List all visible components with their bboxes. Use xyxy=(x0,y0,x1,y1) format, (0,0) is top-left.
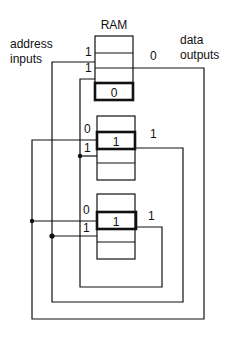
junction-dot xyxy=(30,219,34,223)
data-label-line1: data xyxy=(180,33,204,47)
address-label-line1: address xyxy=(10,37,53,51)
output-bit: 0 xyxy=(150,49,157,63)
junction-dot xyxy=(78,154,82,158)
selected-value: 1 xyxy=(113,135,120,149)
addr-bit-2: 1 xyxy=(85,61,92,75)
output-bit: 1 xyxy=(150,127,157,141)
addr-bit-2: 1 xyxy=(83,221,90,235)
data-label-line2: outputs xyxy=(180,48,219,62)
addr-bit-1: 0 xyxy=(83,203,90,217)
addr-bit-1: 0 xyxy=(84,122,91,136)
address-label-line2: inputs xyxy=(10,52,42,66)
selected-value: 0 xyxy=(111,86,118,100)
junction-dot xyxy=(49,233,54,238)
output-bit: 1 xyxy=(148,209,155,223)
addr-bit-1: 1 xyxy=(85,45,92,59)
ram-feedback-diagram: RAM address inputs data outputs 0 1 1 0 … xyxy=(0,0,232,338)
ram-title: RAM xyxy=(101,18,128,32)
addr-bit-2: 1 xyxy=(84,141,91,155)
selected-value: 1 xyxy=(113,215,120,229)
